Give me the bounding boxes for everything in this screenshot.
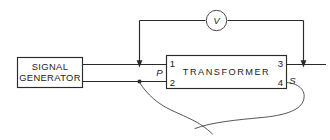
probe-arrow-left-icon [137, 60, 143, 67]
transformer-label: TRANSFORMER [183, 67, 270, 77]
secondary-return-wire [195, 83, 304, 129]
probe-arrow-right-icon [301, 60, 307, 67]
primary-winding-label: P [156, 67, 163, 78]
transformer-terminal-2: 2 [170, 77, 175, 88]
signal-generator-label-line1: SIGNAL [32, 61, 69, 72]
circuit-diagram: V SIGNAL GENERATOR TRANSFORMER 1 2 3 4 P [0, 0, 330, 140]
signal-generator: SIGNAL GENERATOR [18, 58, 83, 88]
transformer-terminal-4: 4 [278, 77, 284, 88]
transformer-terminal-1: 1 [170, 58, 175, 69]
circuit-schematic-canvas: V SIGNAL GENERATOR TRANSFORMER 1 2 3 4 P [0, 0, 330, 140]
signal-generator-label-line2: GENERATOR [19, 72, 81, 83]
transformer: TRANSFORMER 1 2 3 4 P S [156, 56, 296, 89]
transformer-terminal-3: 3 [278, 58, 283, 69]
primary-connection-wires [83, 65, 167, 84]
voltmeter-label: V [213, 16, 220, 26]
